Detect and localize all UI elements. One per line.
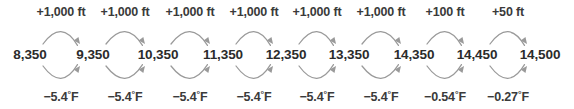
forward-arrow — [171, 32, 207, 46]
temperature-change-value: −5.4 — [236, 90, 260, 104]
temperature-change-value: −5.4 — [363, 90, 387, 104]
temperature-change-value: −5.4 — [299, 90, 323, 104]
temperature-change-label: −5.4°F — [25, 86, 97, 103]
temperature-unit: F — [391, 90, 399, 104]
temperature-change-value: −5.4 — [43, 90, 67, 104]
altitude-change-label: +1,000 ft — [155, 4, 225, 21]
altitude-change-label: +1,000 ft — [26, 4, 96, 21]
arrow-head-icon — [521, 37, 527, 44]
arrow-head-icon — [139, 37, 145, 44]
arrow-head-icon — [395, 66, 401, 73]
temperature-change-label-row: −5.4°F−5.4°F−5.4°F−5.4°F−5.4°F−5.4°F−0.5… — [0, 86, 574, 103]
arrow-head-icon — [458, 37, 464, 44]
altitude-value-row: 8,3509,35010,35011,35012,35013,35014,350… — [0, 46, 574, 64]
arrow-head-icon — [204, 37, 210, 44]
temperature-change-label: −5.4°F — [218, 86, 290, 103]
temperature-change-label: −0.27°F — [472, 86, 544, 103]
temperature-unit: F — [459, 90, 467, 104]
temperature-unit: F — [71, 90, 79, 104]
altitude-change-label: +1,000 ft — [90, 4, 160, 21]
temperature-change-value: −5.4 — [172, 90, 196, 104]
temperature-change-label: −5.4°F — [89, 86, 161, 103]
temperature-unit: F — [264, 90, 272, 104]
forward-arrow — [236, 32, 270, 46]
altitude-change-label: +100 ft — [410, 4, 480, 21]
altitude-value: 8,350 — [0, 46, 61, 64]
arrow-head-icon — [74, 37, 80, 44]
return-arrow — [106, 65, 142, 79]
arrow-head-icon — [458, 66, 464, 73]
return-arrow — [362, 65, 398, 79]
arrow-head-icon — [267, 37, 273, 44]
forward-arrow — [427, 32, 461, 46]
altitude-change-label-row: +1,000 ft+1,000 ft+1,000 ft+1,000 ft+1,0… — [0, 4, 574, 21]
forward-arrow — [299, 32, 333, 46]
arrow-head-icon — [521, 66, 527, 73]
forward-arrow — [490, 32, 524, 46]
temperature-change-label: −5.4°F — [345, 86, 417, 103]
forward-arrow — [362, 32, 398, 46]
return-arrow — [43, 65, 77, 79]
top-arc-group — [43, 32, 527, 46]
temperature-change-value: −0.54 — [424, 90, 455, 104]
arrow-head-icon — [330, 66, 336, 73]
altitude-change-label: +50 ft — [473, 4, 543, 21]
return-arrow — [490, 65, 524, 79]
arrow-head-icon — [204, 66, 210, 73]
temperature-change-value: −5.4 — [107, 90, 131, 104]
temperature-change-label: −5.4°F — [154, 86, 226, 103]
altitude-value: 9,350 — [62, 46, 124, 64]
temperature-change-value: −0.27 — [487, 90, 518, 104]
arrow-head-icon — [267, 66, 273, 73]
temperature-change-label: −0.54°F — [409, 86, 481, 103]
altitude-change-label: +1,000 ft — [282, 4, 352, 21]
return-arrow — [171, 65, 207, 79]
return-arrow — [299, 65, 333, 79]
altitude-value: 13,350 — [318, 46, 380, 64]
altitude-value: 10,350 — [127, 46, 189, 64]
altitude-value: 14,450 — [446, 46, 508, 64]
return-arrow — [236, 65, 270, 79]
altitude-temperature-diagram: +1,000 ft+1,000 ft+1,000 ft+1,000 ft+1,0… — [0, 0, 574, 109]
temperature-unit: F — [200, 90, 208, 104]
temperature-unit: F — [522, 90, 530, 104]
arrow-head-icon — [139, 66, 145, 73]
altitude-change-label: +1,000 ft — [346, 4, 416, 21]
return-arrow — [427, 65, 461, 79]
bottom-arc-group — [43, 65, 527, 79]
altitude-value: 12,350 — [255, 46, 317, 64]
forward-arrow — [106, 32, 142, 46]
forward-arrow — [43, 32, 77, 46]
altitude-value: 14,500 — [509, 46, 571, 64]
temperature-unit: F — [135, 90, 143, 104]
altitude-value: 14,350 — [383, 46, 445, 64]
arrow-head-icon — [330, 37, 336, 44]
altitude-value: 11,350 — [192, 46, 254, 64]
altitude-change-label: +1,000 ft — [219, 4, 289, 21]
arrow-head-icon — [74, 66, 80, 73]
temperature-unit: F — [327, 90, 335, 104]
temperature-change-label: −5.4°F — [281, 86, 353, 103]
arrow-head-icon — [395, 37, 401, 44]
